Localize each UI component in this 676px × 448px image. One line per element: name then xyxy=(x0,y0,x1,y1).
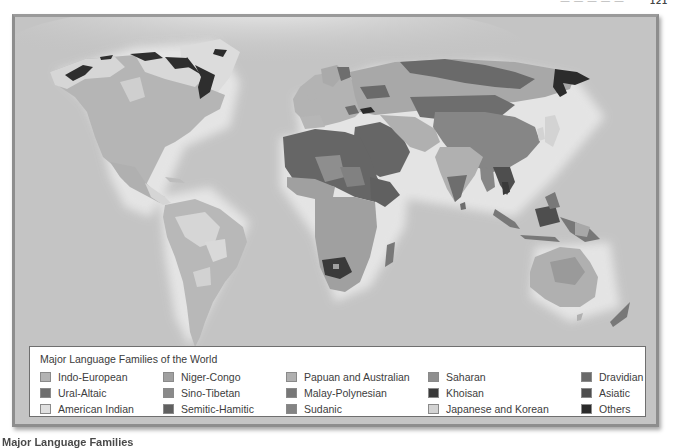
legend-label: Sudanic xyxy=(304,403,342,415)
legend-label: Sino-Tibetan xyxy=(181,387,240,399)
legend-swatch xyxy=(286,404,297,414)
legend-label: Malay-Polynesian xyxy=(304,387,387,399)
legend-swatch xyxy=(40,388,51,398)
legend-item-dravidian: Dravidian xyxy=(581,369,659,385)
figure-caption: Major Language Families xyxy=(2,436,133,448)
legend-item-khoisan: Khoisan xyxy=(428,385,581,401)
legend-item-malay-polynesian: Malay-Polynesian xyxy=(286,385,428,401)
legend-label: Others xyxy=(599,403,631,415)
legend-label: Papuan and Australian xyxy=(304,371,410,383)
legend-grid: Indo-European Ural-Altaic American India… xyxy=(40,369,635,417)
legend-swatch xyxy=(428,388,439,398)
running-header-text: — — — — — xyxy=(560,0,624,6)
page-number: 121 xyxy=(650,0,668,6)
legend-item-japanese-korean: Japanese and Korean xyxy=(428,401,581,417)
legend-swatch xyxy=(163,404,174,414)
legend-item-others: Others xyxy=(581,401,659,417)
legend-swatch xyxy=(286,372,297,382)
legend-swatch xyxy=(581,372,592,382)
legend-item-sudanic: Sudanic xyxy=(286,401,428,417)
legend-label: American Indian xyxy=(58,403,134,415)
legend-swatch xyxy=(163,388,174,398)
legend-item-papuan-australian: Papuan and Australian xyxy=(286,369,428,385)
legend-item-american-indian: American Indian xyxy=(40,401,163,417)
legend-item-sino-tibetan: Sino-Tibetan xyxy=(163,385,286,401)
legend-swatch xyxy=(40,372,51,382)
legend-swatch xyxy=(286,388,297,398)
legend-label: Ural-Altaic xyxy=(58,387,106,399)
legend-label: Saharan xyxy=(446,371,486,383)
legend-label: Niger-Congo xyxy=(181,371,241,383)
legend-item-saharan: Saharan xyxy=(428,369,581,385)
legend-label: Dravidian xyxy=(599,371,643,383)
legend-title: Major Language Families of the World xyxy=(40,353,635,365)
legend-label: Semitic-Hamitic xyxy=(181,403,254,415)
legend-label: Japanese and Korean xyxy=(446,403,549,415)
legend-label: Khoisan xyxy=(446,387,484,399)
legend-swatch xyxy=(163,372,174,382)
legend-swatch xyxy=(40,404,51,414)
legend-swatch xyxy=(428,404,439,414)
legend-item-asiatic: Asiatic xyxy=(581,385,659,401)
page-header: — — — — — 121 xyxy=(560,0,668,6)
legend-item-semitic-hamitic: Semitic-Hamitic xyxy=(163,401,286,417)
world-map-frame: Major Language Families of the World Ind… xyxy=(12,14,659,427)
legend-swatch xyxy=(581,404,592,414)
legend-swatch xyxy=(428,372,439,382)
map-legend: Major Language Families of the World Ind… xyxy=(29,346,646,417)
legend-item-niger-congo: Niger-Congo xyxy=(163,369,286,385)
legend-item-ural-altaic: Ural-Altaic xyxy=(40,385,163,401)
legend-label: Indo-European xyxy=(58,371,127,383)
legend-swatch xyxy=(581,388,592,398)
legend-label: Asiatic xyxy=(599,387,630,399)
legend-item-indo-european: Indo-European xyxy=(40,369,163,385)
